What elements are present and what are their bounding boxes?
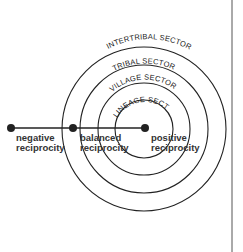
balanced-reciprocity-label: balanced reciprocity [80, 132, 129, 153]
tribal-sector-label: TRIBAL SECTOR [111, 56, 177, 72]
reciprocity-sectors-diagram: INTERTRIBAL SECTOR TRIBAL SECTOR VILLAGE… [0, 0, 243, 252]
balanced-reciprocity-dot [69, 124, 77, 132]
intertribal-sector-label: INTERTRIBAL SECTOR [105, 32, 194, 52]
negative-reciprocity-label: negative reciprocity [16, 132, 65, 153]
positive-reciprocity-dot [141, 124, 149, 132]
negative-reciprocity-dot [7, 124, 15, 132]
positive-reciprocity-label: positive reciprocity [151, 132, 200, 153]
